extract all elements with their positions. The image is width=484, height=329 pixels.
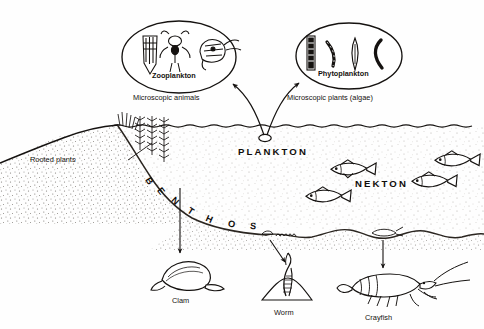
- lake-cross-section-artwork: [0, 0, 484, 329]
- worm-specimen: [262, 253, 312, 300]
- rooted-plants-label: Rooted plants: [30, 155, 76, 164]
- benthos-letter: S: [249, 221, 256, 232]
- plankton-origin-marker: [259, 134, 271, 141]
- clam-specimen: [151, 262, 224, 291]
- crayfish-label: Crayfish: [365, 313, 392, 322]
- crayfish-specimen: [337, 262, 470, 307]
- phytoplankton-subcaption: Microscopic plants (algae): [287, 93, 373, 102]
- zone-label-nekton: NEKTON: [355, 178, 408, 189]
- zooplankton-oval: [122, 21, 241, 93]
- worm-label: Worm: [274, 308, 294, 317]
- phytoplankton-oval: [296, 23, 402, 89]
- phytoplankton-caption: Phytoplankton: [318, 69, 369, 78]
- diagram-canvas: Zooplankton Microscopic animals Phytopla…: [0, 0, 484, 329]
- zooplankton-subcaption: Microscopic animals: [133, 93, 200, 102]
- zone-label-plankton: PLANKTON: [238, 146, 308, 157]
- clam-label: Clam: [172, 296, 189, 305]
- zooplankton-caption: Zooplankton: [152, 71, 196, 80]
